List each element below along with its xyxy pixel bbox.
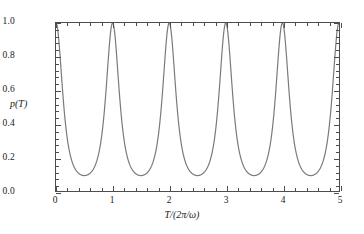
y-minor-tick-right [336,111,339,112]
x-axis-title-text: T/(2π/ω) [165,209,200,220]
x-minor-tick-top [136,23,137,26]
y-major-tick-right [334,91,339,92]
x-minor-tick-top [295,23,296,26]
curve-plot [56,23,339,191]
y-minor-tick [56,71,59,72]
x-minor-tick [216,188,217,191]
y-minor-tick-right [336,50,339,51]
y-tick-label: 0.0 [3,186,15,196]
x-minor-tick [318,188,319,191]
x-minor-tick-top [102,23,103,26]
x-axis-title: T/(2π/ω) [0,209,364,220]
x-minor-tick-top [330,23,331,26]
x-minor-tick [238,188,239,191]
y-minor-tick-right [336,173,339,174]
x-minor-tick-top [90,23,91,26]
x-minor-tick [330,188,331,191]
x-major-tick [170,186,171,191]
y-minor-tick-right [336,166,339,167]
y-major-tick-right [334,125,339,126]
x-major-tick-top [56,23,57,28]
y-major-tick [56,57,61,58]
x-minor-tick-top [216,23,217,26]
x-tick-label: 5 [330,195,350,205]
y-tick-label: 0.8 [3,50,15,60]
y-major-tick [56,159,61,160]
x-minor-tick [124,188,125,191]
x-minor-tick [136,188,137,191]
x-minor-tick [159,188,160,191]
x-major-tick [56,186,57,191]
y-tick-label: 0.6 [3,84,15,94]
y-minor-tick [56,179,59,180]
x-minor-tick [67,188,68,191]
x-minor-tick [295,188,296,191]
x-major-tick-top [170,23,171,28]
y-tick-label: 0.2 [3,152,15,162]
x-minor-tick-top [147,23,148,26]
x-tick-label: 4 [273,195,293,205]
plot-frame [55,22,340,192]
x-minor-tick-top [204,23,205,26]
y-minor-tick [56,64,59,65]
x-major-tick [113,186,114,191]
x-minor-tick-top [261,23,262,26]
y-minor-tick-right [336,37,339,38]
y-minor-tick-right [336,71,339,72]
y-minor-tick [56,166,59,167]
y-minor-tick [56,111,59,112]
y-minor-tick [56,84,59,85]
y-minor-tick-right [336,84,339,85]
x-minor-tick [307,188,308,191]
y-minor-tick [56,132,59,133]
y-minor-tick-right [336,43,339,44]
x-minor-tick [147,188,148,191]
y-minor-tick-right [336,179,339,180]
y-tick-label: 1.0 [3,16,15,26]
y-minor-tick-right [336,145,339,146]
x-minor-tick-top [159,23,160,26]
y-minor-tick [56,43,59,44]
y-major-tick-right [334,57,339,58]
y-minor-tick-right [336,118,339,119]
x-minor-tick [261,188,262,191]
x-major-tick-top [227,23,228,28]
x-minor-tick-top [181,23,182,26]
y-minor-tick-right [336,152,339,153]
y-major-tick [56,125,61,126]
x-minor-tick [193,188,194,191]
y-major-tick-right [334,159,339,160]
y-minor-tick-right [336,105,339,106]
x-minor-tick-top [238,23,239,26]
x-minor-tick [204,188,205,191]
y-major-tick-right [334,23,339,24]
x-minor-tick [90,188,91,191]
y-minor-tick [56,105,59,106]
x-major-tick-top [284,23,285,28]
y-minor-tick [56,37,59,38]
x-minor-tick [102,188,103,191]
y-minor-tick [56,139,59,140]
x-tick-label: 2 [159,195,179,205]
figure-canvas: p(T) T/(2π/ω) 0.00.20.40.60.81.0 012345 [0,0,364,234]
y-minor-tick [56,50,59,51]
x-tick-label: 0 [45,195,65,205]
x-major-tick-top [113,23,114,28]
x-minor-tick-top [250,23,251,26]
y-minor-tick-right [336,30,339,31]
y-minor-tick [56,30,59,31]
x-minor-tick [181,188,182,191]
y-minor-tick-right [336,64,339,65]
y-major-tick-right [334,193,339,194]
x-major-tick [284,186,285,191]
x-minor-tick-top [318,23,319,26]
x-minor-tick [273,188,274,191]
x-minor-tick-top [79,23,80,26]
x-minor-tick-top [124,23,125,26]
x-minor-tick [79,188,80,191]
x-minor-tick-top [273,23,274,26]
y-major-tick [56,193,61,194]
y-minor-tick [56,98,59,99]
x-major-tick-top [341,23,342,28]
x-major-tick [227,186,228,191]
